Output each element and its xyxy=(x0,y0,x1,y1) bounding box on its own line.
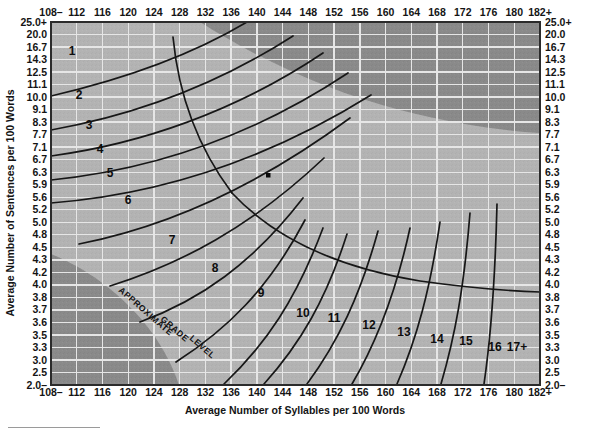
x-tick-label-bottom: 164 xyxy=(403,386,421,398)
x-tick-label-top: 140 xyxy=(248,6,266,18)
y-tick-label-left: 4.5 xyxy=(32,241,47,253)
y-tick-label-left: 6.7 xyxy=(32,153,47,165)
grade-level-label-5: 5 xyxy=(107,166,114,180)
x-tick-label-top: 152 xyxy=(325,6,343,18)
y-tick-label-right: 5.9 xyxy=(545,178,560,190)
grade-level-label-1: 1 xyxy=(69,44,76,58)
x-tick-label-top: 124 xyxy=(145,6,163,18)
x-tick-label-bottom: 124 xyxy=(145,386,163,398)
x-axis-title: Average Number of Syllables per 100 Word… xyxy=(185,404,405,416)
y-tick-label-right: 3.5 xyxy=(545,329,560,341)
grade-level-label-17+: 17+ xyxy=(507,340,527,354)
x-tick-label-bottom: 120 xyxy=(119,386,137,398)
y-tick-label-right: 9.1 xyxy=(545,103,560,115)
y-tick-label-left: 25.0+ xyxy=(20,16,47,28)
x-tick-label-bottom: 140 xyxy=(248,386,266,398)
y-tick-label-left: 4.0 xyxy=(32,278,47,290)
y-tick-label-left: 12.5 xyxy=(27,66,48,78)
grade-level-label-6: 6 xyxy=(125,193,132,207)
y-tick-label-right: 14.3 xyxy=(545,53,566,65)
x-tick-label-top: 116 xyxy=(94,6,111,18)
y-tick-label-right: 16.7 xyxy=(545,41,566,53)
y-tick-label-left: 11.1 xyxy=(27,78,47,90)
y-tick-label-left: 7.1 xyxy=(32,141,47,153)
plot-area: 1234567891011121314151617+ APPROXIMATE G… xyxy=(51,22,540,385)
y-tick-label-right: 4.8 xyxy=(545,228,560,240)
y-tick-label-right: 4.0 xyxy=(545,278,560,290)
x-tick-label-bottom: 180 xyxy=(505,386,523,398)
y-tick-label-left: 3.7 xyxy=(32,303,47,315)
y-tick-label-left: 9.1 xyxy=(32,103,47,115)
grade-level-label-12: 12 xyxy=(362,318,376,332)
y-tick-label-left: 10.0 xyxy=(27,91,48,103)
y-tick-label-left: 5.9 xyxy=(32,178,47,190)
x-tick-label-top: 120 xyxy=(119,6,137,18)
y-tick-label-right: 6.7 xyxy=(545,153,560,165)
y-tick-label-left: 8.3 xyxy=(32,116,47,128)
x-tick-label-top: 168 xyxy=(428,6,446,18)
y-tick-label-right: 3.3 xyxy=(545,341,560,353)
plotted-data-point xyxy=(266,173,271,178)
x-tick-label-bottom: 152 xyxy=(325,386,343,398)
y-tick-label-right: 3.8 xyxy=(545,291,560,303)
y-tick-label-right: 5.0 xyxy=(545,216,560,228)
y-tick-label-right: 25.0+ xyxy=(545,16,572,28)
x-tick-label-top: 160 xyxy=(377,6,395,18)
x-tick-label-bottom: 160 xyxy=(377,386,395,398)
y-tick-label-left: 6.3 xyxy=(32,166,47,178)
grade-level-label-8: 8 xyxy=(212,261,219,275)
x-tick-label-bottom: 148 xyxy=(300,386,318,398)
grade-level-label-11: 11 xyxy=(328,311,341,325)
y-tick-label-right: 4.2 xyxy=(545,266,560,278)
grade-level-label-14: 14 xyxy=(430,332,444,346)
y-tick-label-left: 16.7 xyxy=(27,41,48,53)
grade-level-label-4: 4 xyxy=(97,142,104,156)
y-tick-label-right: 11.1 xyxy=(545,78,565,90)
x-tick-label-top: 164 xyxy=(403,6,421,18)
grade-level-label-13: 13 xyxy=(397,325,411,339)
y-tick-label-left: 7.7 xyxy=(32,128,47,140)
grade-level-label-10: 10 xyxy=(296,306,310,320)
grade-level-label-15: 15 xyxy=(459,334,473,348)
x-tick-label-bottom: 112 xyxy=(68,386,85,398)
x-tick-label-bottom: 136 xyxy=(222,386,240,398)
x-tick-label-top: 132 xyxy=(197,6,215,18)
x-tick-label-bottom: 132 xyxy=(197,386,215,398)
y-tick-label-left: 5.2 xyxy=(32,203,47,215)
grade-level-label-3: 3 xyxy=(86,118,93,132)
x-tick-label-bottom: 156 xyxy=(351,386,369,398)
grade-level-label-9: 9 xyxy=(258,286,265,300)
grade-level-label-7: 7 xyxy=(169,233,176,247)
y-tick-label-left: 14.3 xyxy=(27,53,48,65)
y-tick-label-left: 3.6 xyxy=(32,316,47,328)
x-tick-label-bottom: 176 xyxy=(480,386,498,398)
x-tick-label-top: 136 xyxy=(222,6,240,18)
y-tick-label-left: 4.2 xyxy=(32,266,47,278)
y-tick-label-left: 5.6 xyxy=(32,191,47,203)
y-tick-label-right: 20.0 xyxy=(545,28,566,40)
grade-level-label-16: 16 xyxy=(488,340,502,354)
y-tick-label-left: 4.8 xyxy=(32,228,47,240)
y-tick-label-left: 2.0– xyxy=(27,379,48,391)
y-tick-label-right: 3.7 xyxy=(545,303,560,315)
x-tick-label-top: 144 xyxy=(274,6,292,18)
y-tick-label-right: 3.0 xyxy=(545,354,560,366)
y-tick-label-left: 5.0 xyxy=(32,216,47,228)
y-tick-label-right: 4.5 xyxy=(545,241,560,253)
y-tick-label-right: 7.1 xyxy=(545,141,560,153)
y-tick-label-left: 20.0 xyxy=(27,28,48,40)
y-tick-label-right: 5.2 xyxy=(545,203,560,215)
y-axis-title: Average Number of Sentences per 100 Word… xyxy=(4,89,16,316)
y-tick-label-left: 3.8 xyxy=(32,291,47,303)
grade-level-label-2: 2 xyxy=(76,88,83,102)
x-tick-label-top: 112 xyxy=(68,6,85,18)
y-tick-label-right: 3.6 xyxy=(545,316,560,328)
x-tick-label-bottom: 172 xyxy=(454,386,472,398)
fry-readability-graph: 1234567891011121314151617+ APPROXIMATE G… xyxy=(0,0,590,432)
y-tick-label-right: 6.3 xyxy=(545,166,560,178)
y-tick-label-right: 8.3 xyxy=(545,116,560,128)
x-tick-label-bottom: 168 xyxy=(428,386,446,398)
x-tick-label-bottom: 144 xyxy=(274,386,292,398)
x-tick-label-top: 156 xyxy=(351,6,369,18)
x-tick-label-top: 148 xyxy=(300,6,318,18)
